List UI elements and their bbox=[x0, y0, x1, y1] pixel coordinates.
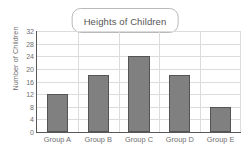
y-gridline bbox=[37, 31, 241, 32]
x-gridline bbox=[119, 31, 120, 132]
bar bbox=[169, 75, 190, 132]
y-axis-tick-label: 28 bbox=[26, 40, 34, 47]
x-axis-tick-label: Group B bbox=[84, 136, 112, 144]
y-axis-tick-label: 4 bbox=[30, 116, 34, 123]
y-axis-label: Number of Children bbox=[11, 13, 20, 105]
chart-title-box: Heights of Children bbox=[72, 8, 179, 33]
x-gridline bbox=[200, 31, 201, 132]
bar bbox=[88, 75, 109, 132]
y-axis-tick-label: 0 bbox=[30, 129, 34, 136]
bar-chart: Heights of Children Number of Children 0… bbox=[0, 0, 250, 160]
chart-title: Heights of Children bbox=[84, 16, 167, 27]
y-axis-tick-label: 8 bbox=[30, 103, 34, 110]
y-axis-tick-label: 24 bbox=[26, 53, 34, 60]
x-gridline bbox=[78, 31, 79, 132]
y-axis-tick-label: 20 bbox=[26, 65, 34, 72]
y-axis-tick-label: 16 bbox=[26, 78, 34, 85]
x-axis-tick-label: Group E bbox=[207, 136, 235, 144]
bar bbox=[47, 94, 68, 132]
bar bbox=[210, 107, 231, 132]
x-axis-tick-label: Group D bbox=[166, 136, 194, 144]
x-axis-tick-label: Group C bbox=[125, 136, 153, 144]
y-axis-tick-label: 12 bbox=[26, 91, 34, 98]
x-gridline bbox=[240, 31, 241, 132]
y-gridline bbox=[37, 44, 241, 45]
plot-area: 048121620242832Group AGroup BGroup CGrou… bbox=[36, 31, 241, 133]
plot-inner: 048121620242832Group AGroup BGroup CGrou… bbox=[37, 31, 241, 132]
x-gridline bbox=[159, 31, 160, 132]
x-axis-tick-label: Group A bbox=[44, 136, 71, 144]
y-axis-tick-label: 32 bbox=[26, 28, 34, 35]
bar bbox=[128, 56, 149, 132]
